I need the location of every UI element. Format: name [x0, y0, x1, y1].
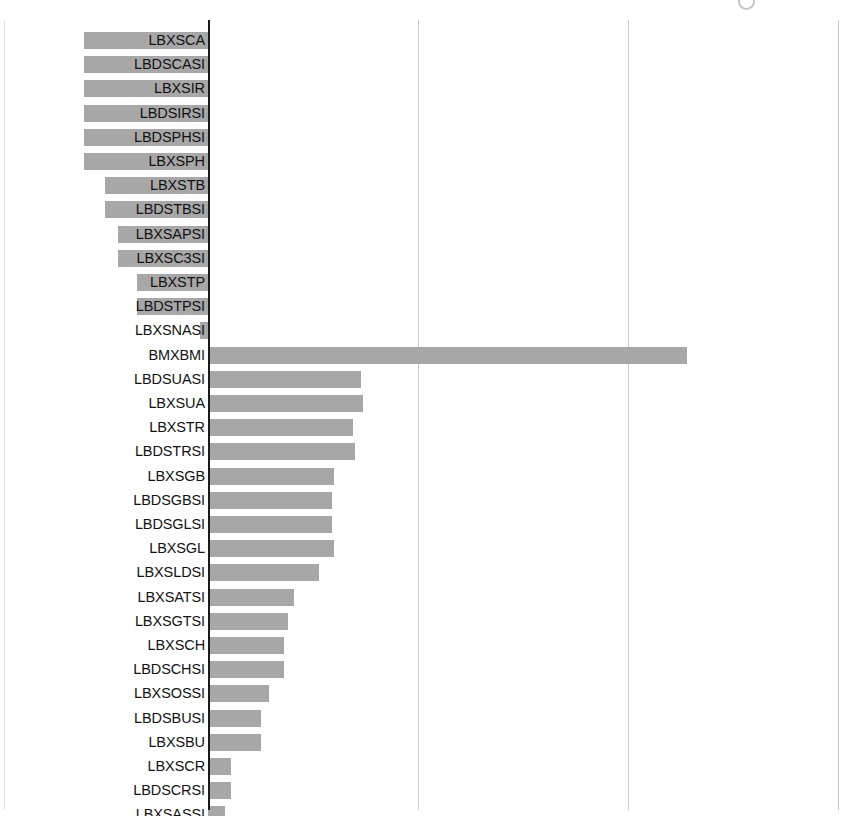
- bar-lbxscr[interactable]: [208, 758, 231, 775]
- bar-row: LBDSCASI: [0, 56, 867, 73]
- chart-screenshot: LBXSCALBDSCASILBXSIRLBDSIRSILBDSPHSILBXS…: [0, 0, 867, 816]
- category-label-lbdsphsi: LBDSPHSI: [134, 129, 205, 146]
- bar-row: LBDSTBSI: [0, 201, 867, 218]
- plot-area: LBXSCALBDSCASILBXSIRLBDSIRSILBDSPHSILBXS…: [0, 20, 867, 810]
- bar-row: LBDSTPSI: [0, 298, 867, 315]
- bar-lbdschsi[interactable]: [208, 661, 284, 678]
- category-label-bmxbmi: BMXBMI: [148, 347, 205, 364]
- category-label-lbxsgb: LBXSGB: [148, 468, 205, 485]
- bar-lbxsldsi[interactable]: [208, 564, 319, 581]
- category-label-lbxsapsi: LBXSAPSI: [136, 226, 205, 243]
- zero-axis-line: [208, 20, 210, 810]
- category-label-lbxsatsi: LBXSATSI: [138, 589, 205, 606]
- bar-row: LBXSATSI: [0, 589, 867, 606]
- category-label-lbdstbsi: LBDSTBSI: [136, 201, 205, 218]
- category-label-lbxsc3si: LBXSC3SI: [136, 250, 205, 267]
- bar-row: LBXSGL: [0, 540, 867, 557]
- bar-row: LBXSAPSI: [0, 226, 867, 243]
- bar-row: LBXSTP: [0, 274, 867, 291]
- bar-row: LBXSUA: [0, 395, 867, 412]
- bar-lbdsbusi[interactable]: [208, 710, 261, 727]
- bar-row: LBDSPHSI: [0, 129, 867, 146]
- category-label-lbdschsi: LBDSCHSI: [133, 661, 205, 678]
- bar-row: LBXSGB: [0, 468, 867, 485]
- bar-lbxsatsi[interactable]: [208, 589, 294, 606]
- bar-row: LBDSGBSI: [0, 492, 867, 509]
- bar-row: LBXSBU: [0, 734, 867, 751]
- bar-lbxsgl[interactable]: [208, 540, 334, 557]
- bar-row: LBXSTB: [0, 177, 867, 194]
- category-label-lbxsph: LBXSPH: [148, 153, 205, 170]
- bar-row: LBXSLDSI: [0, 564, 867, 581]
- bar-lbxsossi[interactable]: [208, 685, 269, 702]
- bar-lbxsassi[interactable]: [208, 806, 225, 816]
- bar-row: LBXSNASI: [0, 322, 867, 339]
- bar-lbdsuasi[interactable]: [208, 371, 361, 388]
- bar-row: LBXSCA: [0, 32, 867, 49]
- bar-lbxsgb[interactable]: [208, 468, 334, 485]
- bar-row: LBXSIR: [0, 80, 867, 97]
- category-label-lbdstpsi: LBDSTPSI: [136, 298, 205, 315]
- bar-row: LBDSUASI: [0, 371, 867, 388]
- bar-row: LBDSCRSI: [0, 782, 867, 799]
- category-label-lbxstb: LBXSTB: [150, 177, 205, 194]
- category-label-lbdsirsi: LBDSIRSI: [140, 105, 205, 122]
- category-label-lbdscrsi: LBDSCRSI: [133, 782, 205, 799]
- bar-lbxsua[interactable]: [208, 395, 363, 412]
- bar-lbdsglsi[interactable]: [208, 516, 332, 533]
- bar-row: BMXBMI: [0, 347, 867, 364]
- category-label-lbxstp: LBXSTP: [150, 274, 205, 291]
- category-label-lbdsglsi: LBDSGLSI: [135, 516, 205, 533]
- bar-row: LBDSTRSI: [0, 443, 867, 460]
- bar-bmxbmi[interactable]: [208, 347, 687, 364]
- bar-lbdscrsi[interactable]: [208, 782, 231, 799]
- bar-row: LBXSCR: [0, 758, 867, 775]
- bar-row: LBXSOSSI: [0, 685, 867, 702]
- category-label-lbdsgbsi: LBDSGBSI: [133, 492, 205, 509]
- category-label-lbxsldsi: LBXSLDSI: [136, 564, 205, 581]
- category-label-lbxsch: LBXSCH: [148, 637, 205, 654]
- category-label-lbxscr: LBXSCR: [148, 758, 205, 775]
- category-label-lbdsuasi: LBDSUASI: [134, 371, 205, 388]
- category-label-lbxsir: LBXSIR: [154, 80, 205, 97]
- category-label-lbxsassi: LBXSASSI: [136, 806, 205, 816]
- bar-lbxstr[interactable]: [208, 419, 353, 436]
- category-label-lbxsbu: LBXSBU: [148, 734, 205, 751]
- bar-row: LBDSIRSI: [0, 105, 867, 122]
- category-label-lbxsossi: LBXSOSSI: [134, 685, 205, 702]
- bar-lbxsch[interactable]: [208, 637, 284, 654]
- bar-lbxsbu[interactable]: [208, 734, 261, 751]
- category-label-lbxsgl: LBXSGL: [149, 540, 205, 557]
- category-label-lbxsca: LBXSCA: [148, 32, 205, 49]
- bar-lbdsgbsi[interactable]: [208, 492, 332, 509]
- category-label-lbdscasi: LBDSCASI: [134, 56, 205, 73]
- bar-row: LBXSC3SI: [0, 250, 867, 267]
- bar-row: LBDSGLSI: [0, 516, 867, 533]
- category-label-lbdstrsi: LBDSTRSI: [135, 443, 205, 460]
- bar-row: LBXSTR: [0, 419, 867, 436]
- bar-row: LBXSASSI: [0, 806, 867, 816]
- bar-row: LBDSCHSI: [0, 661, 867, 678]
- category-label-lbxsua: LBXSUA: [148, 395, 205, 412]
- bar-row: LBDSBUSI: [0, 710, 867, 727]
- bar-lbxsgtsi[interactable]: [208, 613, 288, 630]
- category-label-lbxstr: LBXSTR: [149, 419, 205, 436]
- bar-lbdstrsi[interactable]: [208, 443, 355, 460]
- category-label-lbxsgtsi: LBXSGTSI: [135, 613, 205, 630]
- clipped-glyph-icon: [738, 0, 755, 10]
- bar-row: LBXSGTSI: [0, 613, 867, 630]
- category-label-lbdsbusi: LBDSBUSI: [134, 710, 205, 727]
- bar-row: LBXSPH: [0, 153, 867, 170]
- category-label-lbxsnasi: LBXSNASI: [135, 322, 205, 339]
- bar-row: LBXSCH: [0, 637, 867, 654]
